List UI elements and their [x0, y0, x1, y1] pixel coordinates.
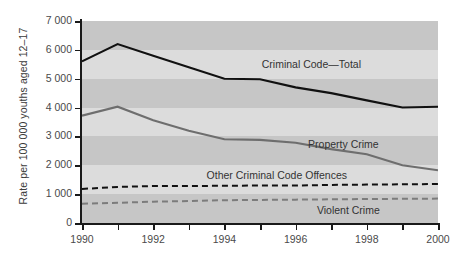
y-axis-tick-label: 7 000	[0, 14, 72, 26]
series-label: Criminal Code—Total	[262, 58, 361, 70]
y-axis-tick-label: 0	[0, 216, 72, 228]
x-axis-tick	[331, 225, 333, 230]
y-axis-tick-label: 4 000	[0, 101, 72, 113]
plot-area: Criminal Code—TotalProperty CrimeOther C…	[82, 21, 438, 223]
x-axis-tick-label: 1992	[142, 233, 165, 245]
series-line	[82, 107, 438, 170]
x-axis-tick	[224, 225, 226, 230]
chart-figure: Rate per 100 000 youths aged 12–17 01 00…	[0, 0, 469, 259]
x-axis-tick	[189, 225, 191, 230]
y-axis-tick-label: 2 000	[0, 158, 72, 170]
x-axis-tick	[438, 225, 440, 230]
series-label: Other Criminal Code Offences	[207, 169, 347, 181]
x-axis-tick-label: 1990	[70, 233, 93, 245]
x-axis-tick-label: 1998	[355, 233, 378, 245]
series-label: Property Crime	[308, 138, 379, 150]
x-axis-tick-label: 2000	[426, 233, 449, 245]
y-axis-tick-label: 6 000	[0, 43, 72, 55]
x-axis-tick	[82, 225, 84, 230]
series-label: Violent Crime	[317, 204, 380, 216]
series-lines	[82, 21, 438, 223]
series-line	[82, 199, 438, 204]
x-axis-tick	[153, 225, 155, 230]
series-line	[82, 44, 438, 107]
x-axis-tick	[296, 225, 298, 230]
y-axis-line	[80, 19, 82, 225]
x-axis-tick-label: 1996	[284, 233, 307, 245]
x-axis-tick	[118, 225, 120, 230]
y-axis-tick-label: 5 000	[0, 72, 72, 84]
x-axis-tick	[260, 225, 262, 230]
y-axis-tick-label: 3 000	[0, 129, 72, 141]
x-axis-tick	[402, 225, 404, 230]
x-axis-tick	[367, 225, 369, 230]
series-line	[82, 184, 438, 189]
x-axis-tick-label: 1994	[213, 233, 236, 245]
y-axis-tick-label: 1 000	[0, 187, 72, 199]
